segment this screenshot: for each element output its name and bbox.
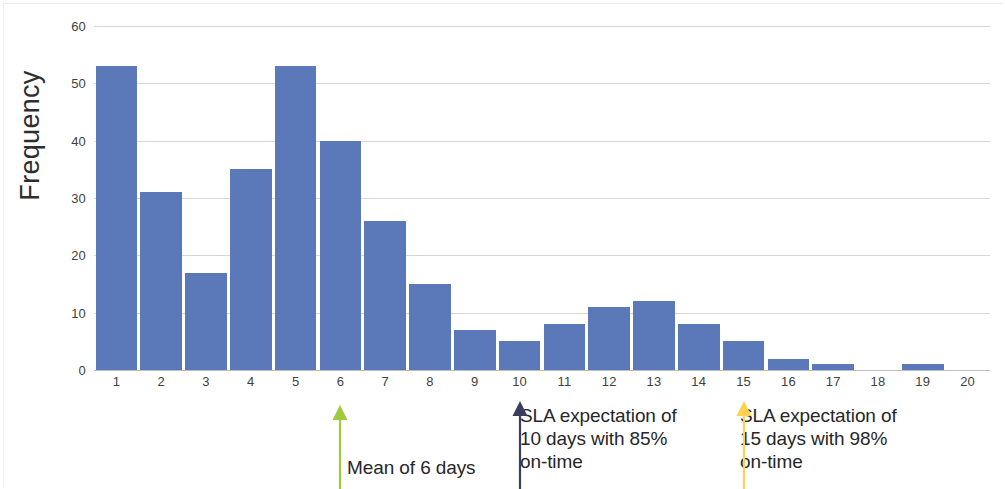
bar[interactable] [812,364,854,370]
y-tick-label-40: 40 [40,133,86,148]
bar[interactable] [320,141,362,370]
bar[interactable] [902,364,944,370]
x-tick-label-2: 2 [157,374,164,389]
y-tick-label-20: 20 [40,248,86,263]
bar[interactable] [454,330,496,370]
bar[interactable] [409,284,451,370]
bar[interactable] [96,66,138,370]
x-tick-label-12: 12 [602,374,617,389]
x-axis-tick-labels: 1234567891011121314151617181920 [94,374,990,394]
x-tick-label-11: 11 [557,374,571,389]
x-tick-label-16: 16 [781,374,796,389]
x-tick-label-20: 20 [960,374,975,389]
y-tick-label-50: 50 [40,76,86,91]
x-tick-label-17: 17 [826,374,841,389]
bar[interactable] [185,273,227,370]
x-tick-label-7: 7 [381,374,388,389]
histogram-chart: Frequency 0102030405060 1234567891011121… [0,0,1005,489]
x-tick-label-3: 3 [202,374,209,389]
annotation-label-sla10: SLA expectation of 10 days with 85% on-t… [520,404,677,473]
y-tick-label-30: 30 [40,191,86,206]
x-tick-label-14: 14 [691,374,706,389]
bar[interactable] [633,301,675,370]
bar[interactable] [499,341,541,370]
x-tick-label-4: 4 [247,374,254,389]
x-tick-label-5: 5 [292,374,299,389]
x-tick-label-1: 1 [113,374,120,389]
bar[interactable] [723,341,765,370]
x-tick-label-13: 13 [647,374,662,389]
x-tick-label-6: 6 [337,374,344,389]
chart-screenshot: Frequency 0102030405060 1234567891011121… [0,0,1005,489]
annotation-arrow-mean [329,404,351,489]
annotation-arrow-sla10 [509,400,531,489]
bar[interactable] [678,324,720,370]
plot-area [94,26,990,370]
y-axis-tick-labels: 0102030405060 [30,26,86,370]
x-tick-label-18: 18 [871,374,886,389]
annotation-label-mean: Mean of 6 days [347,456,476,479]
bar[interactable] [275,66,317,370]
x-tick-label-9: 9 [471,374,478,389]
annotation-arrow-sla15 [733,400,755,489]
x-tick-label-10: 10 [512,374,527,389]
bar-series [94,26,990,370]
x-tick-label-19: 19 [915,374,930,389]
bar[interactable] [230,169,272,370]
x-tick-label-8: 8 [426,374,433,389]
bar[interactable] [140,192,182,370]
bar[interactable] [544,324,586,370]
y-tick-label-10: 10 [40,305,86,320]
bar[interactable] [588,307,630,370]
bar[interactable] [768,359,810,370]
y-tick-label-0: 0 [40,363,86,378]
gridline-0 [94,370,990,371]
x-tick-label-15: 15 [736,374,751,389]
bar[interactable] [364,221,406,370]
y-tick-label-60: 60 [40,19,86,34]
annotation-label-sla15: SLA expectation of 15 days with 98% on-t… [740,404,897,473]
